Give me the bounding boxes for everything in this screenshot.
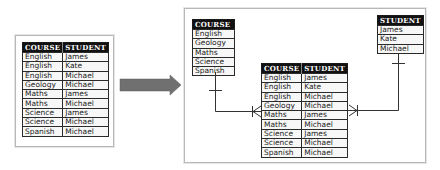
course-to-link-connector (209, 72, 261, 117)
relationship-connectors (0, 0, 440, 170)
student-to-link-connector (348, 54, 405, 116)
